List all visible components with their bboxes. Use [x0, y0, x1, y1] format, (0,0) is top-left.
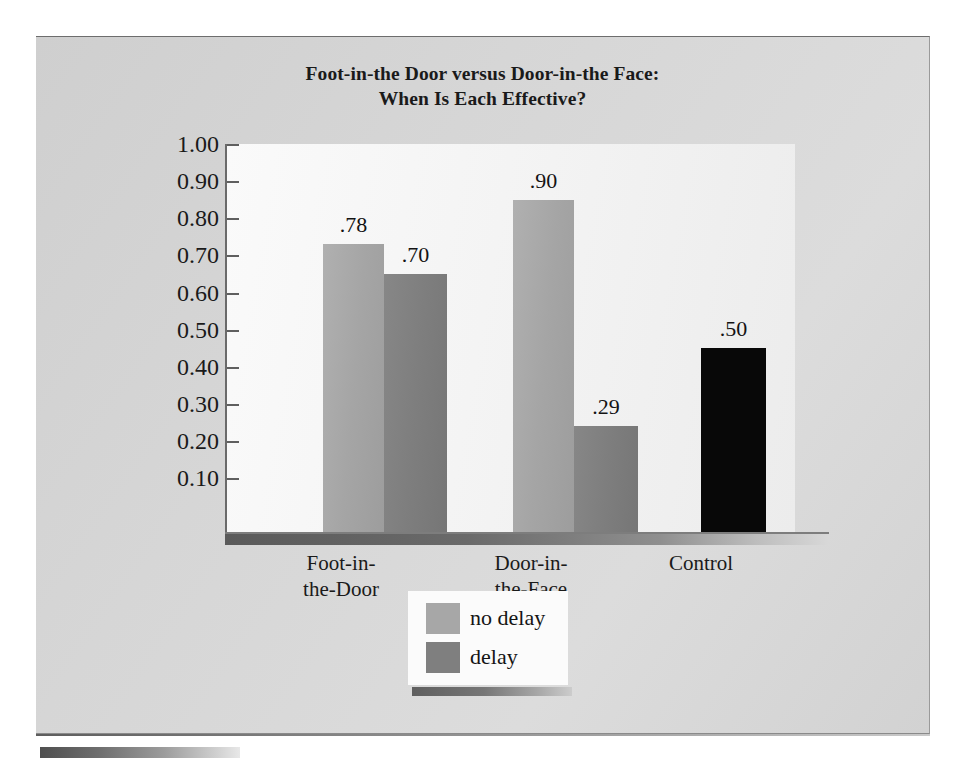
y-axis-tick-labels: 1.00 0.90 0.80 0.70 0.60 0.50 0.40 0.30 …: [145, 144, 219, 536]
bar-door-in-the-face-no-delay: [513, 200, 574, 534]
bar-foot-in-the-door-delay: [384, 274, 447, 534]
legend-shadow-bar: [412, 687, 572, 696]
bar-value-foot-in-the-door-no-delay: .78: [323, 214, 384, 236]
legend-label-delay: delay: [470, 644, 518, 670]
figure-panel: Foot-in-the Door versus Door-in-the Face…: [36, 36, 930, 734]
y-tick-0-60: [227, 293, 239, 295]
legend-swatch-delay: [426, 642, 460, 673]
bar-door-in-the-face-delay: [574, 426, 638, 534]
y-tick-0-30: [227, 404, 239, 406]
y-tick-label-0-20: 0.20: [155, 429, 219, 453]
y-tick-0-90: [227, 181, 239, 183]
chart-title-line-1: Foot-in-the Door versus Door-in-the Face…: [36, 61, 929, 86]
bar-control: [701, 348, 766, 534]
bar-value-door-in-the-face-no-delay: .90: [513, 170, 574, 192]
bar-value-door-in-the-face-delay: .29: [574, 396, 638, 418]
legend: no delay delay: [408, 591, 568, 685]
y-tick-label-1-00: 1.00: [155, 132, 219, 156]
y-tick-0-10: [227, 478, 239, 480]
bar-value-foot-in-the-door-delay: .70: [384, 244, 447, 266]
y-tick-0-40: [227, 367, 239, 369]
y-tick-label-0-40: 0.40: [155, 355, 219, 379]
x-axis-label-foot-in-the-door-line-1: Foot-in-: [276, 550, 406, 576]
chart-title: Foot-in-the Door versus Door-in-the Face…: [36, 61, 929, 111]
y-tick-label-0-50: 0.50: [155, 318, 219, 342]
y-tick-label-0-90: 0.90: [155, 169, 219, 193]
x-axis-label-foot-in-the-door: Foot-in- the-Door: [276, 550, 406, 602]
footer-decoration-bar: [40, 747, 240, 758]
y-tick-1-00: [227, 144, 239, 146]
x-axis-label-control-line-1: Control: [636, 550, 766, 576]
x-axis-baseline-slab: [225, 534, 829, 545]
bar-foot-in-the-door-no-delay: [323, 244, 384, 534]
x-axis-label-door-in-the-face-line-1: Door-in-: [466, 550, 596, 576]
legend-swatch-no-delay: [426, 603, 460, 634]
x-axis-label-control: Control: [636, 550, 766, 576]
chart-title-line-2: When Is Each Effective?: [36, 86, 929, 111]
y-tick-label-0-70: 0.70: [155, 243, 219, 267]
y-tick-0-70: [227, 255, 239, 257]
y-tick-0-20: [227, 441, 239, 443]
y-tick-label-0-30: 0.30: [155, 392, 219, 416]
plot-area: .78 .70 .90 .29 .50: [225, 144, 795, 534]
y-tick-0-50: [227, 330, 239, 332]
bar-value-control: .50: [701, 318, 766, 340]
y-tick-label-0-10: 0.10: [155, 466, 219, 490]
legend-label-no-delay: no delay: [470, 605, 545, 631]
y-tick-label-0-80: 0.80: [155, 206, 219, 230]
footer-rule: [36, 734, 930, 736]
y-tick-0-80: [227, 218, 239, 220]
x-axis-label-foot-in-the-door-line-2: the-Door: [276, 576, 406, 602]
y-tick-label-0-60: 0.60: [155, 281, 219, 305]
